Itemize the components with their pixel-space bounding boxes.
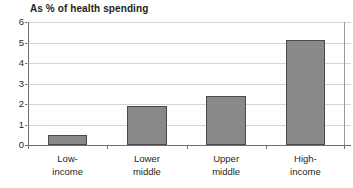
x-tick-mark-3: [266, 145, 267, 149]
bar-chart: As % of health spending 6 5 4 3 2 1 0: [0, 0, 353, 188]
x-tick-mark-4: [344, 145, 345, 149]
x-axis-label-high-income: High- income: [266, 152, 345, 178]
x-tick-mark-1: [107, 145, 108, 149]
y-axis-labels: 6 5 4 3 2 1 0: [0, 22, 24, 145]
y-axis-label-4: 4: [2, 58, 24, 68]
x-axis-label-low-income: Low- income: [28, 152, 107, 178]
y-axis-label-5: 5: [2, 38, 24, 48]
x-axis-label-upper-middle-line2: middle: [187, 165, 266, 178]
x-axis-label-high-income-line1: High-: [266, 152, 345, 165]
y-axis-label-0: 0: [2, 140, 24, 150]
bar-lower-middle[interactable]: [127, 106, 167, 145]
x-axis-ticks: [28, 145, 345, 150]
bars-layer: [28, 22, 345, 145]
x-axis-label-lower-middle-line2: middle: [107, 165, 186, 178]
y-axis-label-6: 6: [2, 17, 24, 27]
chart-title: As % of health spending: [30, 2, 148, 15]
x-axis-label-lower-middle: Lower middle: [107, 152, 186, 178]
bar-slot-high-income: [266, 22, 345, 145]
x-axis-labels: Low- income Lower middle Upper middle Hi…: [28, 152, 345, 186]
y-axis-label-2: 2: [2, 99, 24, 109]
bar-slot-upper-middle: [187, 22, 266, 145]
x-axis-label-upper-middle-line1: Upper: [187, 152, 266, 165]
x-tick-mark-2: [187, 145, 188, 149]
x-axis-label-low-income-line2: income: [28, 165, 107, 178]
bar-slot-lower-middle: [107, 22, 186, 145]
x-tick-mark-0: [28, 145, 29, 149]
bar-high-income[interactable]: [286, 40, 326, 145]
x-axis-label-high-income-line2: income: [266, 165, 345, 178]
bar-low-income[interactable]: [48, 135, 88, 145]
y-axis-label-1: 1: [2, 120, 24, 130]
bar-slot-low-income: [28, 22, 107, 145]
x-axis-label-upper-middle: Upper middle: [187, 152, 266, 178]
x-axis-label-lower-middle-line1: Lower: [107, 152, 186, 165]
bar-upper-middle[interactable]: [206, 96, 246, 145]
y-axis-label-3: 3: [2, 79, 24, 89]
x-axis-label-low-income-line1: Low-: [28, 152, 107, 165]
